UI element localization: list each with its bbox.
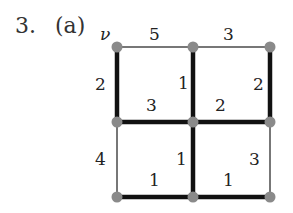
node-n6 bbox=[265, 117, 276, 128]
start-vertex-label: ν bbox=[100, 24, 110, 44]
weight-n3-n6: 2 bbox=[253, 74, 264, 94]
weight-n7-n8: 1 bbox=[149, 170, 160, 190]
node-n4 bbox=[112, 117, 123, 128]
weight-n2-n3: 3 bbox=[223, 24, 234, 44]
node-n2 bbox=[188, 42, 199, 53]
weight-n5-n6: 2 bbox=[215, 95, 226, 115]
weight-n8-n9: 1 bbox=[223, 170, 234, 190]
node-n8 bbox=[188, 192, 199, 203]
weight-n5-n8: 1 bbox=[176, 149, 187, 169]
weight-n2-n5: 1 bbox=[178, 73, 189, 93]
node-n3 bbox=[265, 42, 276, 53]
weight-n4-n5: 3 bbox=[146, 95, 157, 115]
node-n5 bbox=[188, 117, 199, 128]
weight-n4-n7: 4 bbox=[95, 149, 106, 169]
weight-v-n2: 5 bbox=[149, 24, 160, 44]
node-v bbox=[112, 42, 123, 53]
weight-n6-n9: 3 bbox=[249, 149, 260, 169]
graph-diagram: ν 5 3 2 1 2 3 2 4 1 3 1 1 bbox=[0, 0, 293, 213]
node-n9 bbox=[265, 192, 276, 203]
node-n7 bbox=[112, 192, 123, 203]
weight-v-n4: 2 bbox=[95, 74, 106, 94]
